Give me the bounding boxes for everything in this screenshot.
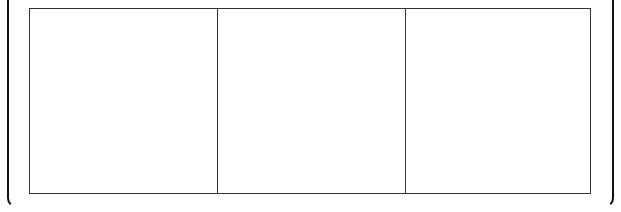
panel-middle (217, 9, 405, 193)
panel-left (30, 9, 217, 193)
panel-right (405, 9, 590, 193)
panel-row (29, 8, 591, 194)
